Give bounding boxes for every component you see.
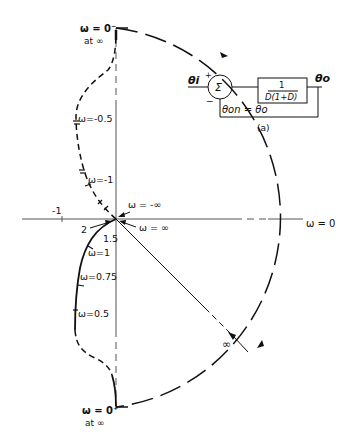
label-omega-05: ω=0.5 xyxy=(78,308,109,319)
label-omega-0-minus: ω = 0⁻ xyxy=(80,23,116,34)
label-omega-075: ω=0.75 xyxy=(80,271,117,282)
label-omega-0-minus-sub: at ∞ xyxy=(84,36,103,46)
label-omega-0: ω = 0 xyxy=(306,218,335,229)
label-1-5: 1.5 xyxy=(103,233,118,244)
label-omega-m1: ω=-1 xyxy=(88,174,113,185)
semicircle-arrow-top-icon xyxy=(220,52,228,58)
label-omega-inf: ω = ∞ xyxy=(139,222,169,233)
summer-symbol: Σ xyxy=(215,81,222,94)
figure-caption: (a) xyxy=(257,123,270,133)
semicircle-arrow-icon xyxy=(257,340,264,348)
label-omega-m05: ω=-0.5 xyxy=(78,113,112,124)
output-label: θo xyxy=(315,72,331,85)
label-omega-minus-inf: ω = -∞ xyxy=(128,199,161,210)
negative-frequency-locus xyxy=(76,30,116,219)
feedback-label: θon = θo xyxy=(222,104,268,115)
tick-label-minus-1: -1 xyxy=(52,205,61,216)
label-infinity: ∞ xyxy=(222,338,231,351)
label-omega-0-plus: ω = 0⁺ xyxy=(82,405,118,416)
label-omega-0-plus-sub: at ∞ xyxy=(85,418,104,428)
input-label: θi xyxy=(188,74,200,87)
transfer-denominator: D(1+D) xyxy=(265,92,297,102)
label-2: 2 xyxy=(81,224,87,235)
axes xyxy=(22,28,303,407)
transfer-numerator: 1 xyxy=(279,80,284,90)
minus-sign: − xyxy=(206,96,214,106)
nyquist-diagram: ω = 0⁻ at ∞ ω=-0.5 ω=-1 ω = -∞ ω = ∞ -1 … xyxy=(0,0,352,445)
label-omega-1: ω=1 xyxy=(88,247,110,258)
plus-sign: + xyxy=(205,71,212,80)
